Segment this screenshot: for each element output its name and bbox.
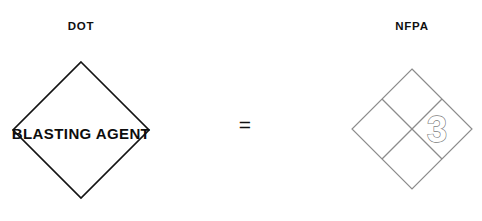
nfpa-rating-right-quadrant: 3 xyxy=(427,109,447,150)
dot-heading: DOT xyxy=(68,20,95,32)
dot-placard-label: BLASTING AGENT xyxy=(12,125,150,142)
nfpa-heading: NFPA xyxy=(395,20,429,32)
dot-nfpa-comparison-figure: DOT BLASTING AGENT = NFPA 3 xyxy=(0,0,482,221)
equals-sign: = xyxy=(239,114,251,135)
nfpa-placard: 3 xyxy=(345,62,479,196)
dot-placard: BLASTING AGENT xyxy=(6,55,156,205)
